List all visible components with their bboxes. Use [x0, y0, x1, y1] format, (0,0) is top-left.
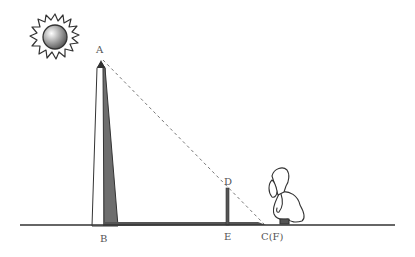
obelisk [92, 60, 118, 226]
label-E: E [224, 231, 231, 242]
label-A: A [95, 44, 104, 55]
obelisk-shadow [101, 62, 118, 226]
observer-figure [269, 168, 304, 224]
label-B: B [100, 233, 107, 244]
sun-icon [30, 14, 79, 59]
diagram-canvas: A B D E C(F) [0, 0, 415, 257]
sight-line [103, 60, 264, 224]
stick-DE [226, 188, 229, 225]
label-D: D [224, 176, 232, 187]
label-C-F: C(F) [261, 231, 283, 242]
